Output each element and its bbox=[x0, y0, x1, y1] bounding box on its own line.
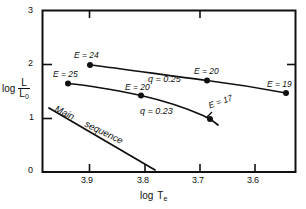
figure-panel: 3 2 1 0 logLL0 3.9 3.8 3.7 3.6 logTe E =… bbox=[0, 0, 306, 209]
datapoint-q025-e19 bbox=[283, 90, 289, 96]
annotation-q-lower: q = 0.23 bbox=[140, 106, 173, 116]
plot-area bbox=[0, 0, 306, 209]
y-axis-ticks bbox=[43, 65, 53, 119]
datapoint-q025-e24 bbox=[87, 62, 93, 68]
y-axis-label-prefix: log bbox=[2, 83, 15, 94]
y-axis-label-fraction: LL0 bbox=[18, 78, 29, 100]
y-tick-label-1: 1 bbox=[29, 112, 34, 122]
y-axis-label: logLL0 bbox=[2, 78, 30, 100]
x-tick-label-3p9: 3.9 bbox=[81, 175, 93, 185]
y-axis-label-denominator: L0 bbox=[18, 89, 29, 100]
datapoint-q023-e25 bbox=[65, 81, 71, 87]
y-axis-label-denominator-sub: 0 bbox=[25, 93, 29, 100]
x-tick-label-3p8: 3.8 bbox=[137, 175, 149, 185]
point-label-e20-lower: E = 20 bbox=[125, 82, 150, 92]
datapoint-q025-e20 bbox=[204, 78, 210, 84]
x-axis-label-main: log bbox=[140, 190, 153, 201]
series-q025-line bbox=[90, 65, 286, 93]
y-tick-label-3: 3 bbox=[28, 5, 33, 15]
point-label-e19: E = 19 bbox=[267, 79, 292, 89]
annotation-q-upper: q = 0.25 bbox=[148, 74, 181, 84]
datapoint-q023-e20 bbox=[138, 93, 144, 99]
x-axis-label: logTe bbox=[140, 190, 167, 202]
x-tick-label-3p7: 3.7 bbox=[192, 175, 204, 185]
y-tick-label-2: 2 bbox=[28, 58, 33, 68]
point-label-e20-upper: E = 20 bbox=[194, 66, 219, 76]
x-tick-label-3p6: 3.6 bbox=[247, 175, 259, 185]
x-axis-label-var-sub: e bbox=[163, 195, 167, 202]
point-label-e25: E = 25 bbox=[53, 69, 78, 79]
plot-frame bbox=[43, 11, 296, 173]
frame-border bbox=[43, 11, 296, 173]
point-label-e24: E = 24 bbox=[74, 50, 99, 60]
y-tick-label-0: 0 bbox=[28, 165, 33, 175]
